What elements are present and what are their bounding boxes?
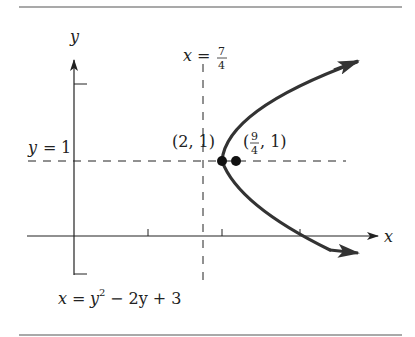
svg-text:x: x bbox=[183, 46, 192, 65]
svg-text:7: 7 bbox=[218, 45, 225, 58]
equation-label: x = y 2 − 2y + 3 bbox=[58, 287, 181, 308]
svg-text:1: 1 bbox=[61, 138, 71, 157]
label-point-9-4-1: ( 9 4 , 1) bbox=[243, 130, 287, 157]
point-vertex bbox=[217, 156, 227, 166]
y-axis-ticks bbox=[74, 84, 87, 274]
x-axis-ticks bbox=[148, 229, 300, 236]
svg-text:(: ( bbox=[243, 132, 249, 151]
svg-text:− 2y + 3: − 2y + 3 bbox=[110, 289, 181, 308]
x-axis-label: x bbox=[384, 227, 393, 246]
label-y-equals-1: y = 1 bbox=[27, 138, 71, 157]
y-axis-label: y bbox=[69, 27, 80, 46]
svg-text:y: y bbox=[27, 138, 38, 157]
svg-text:, 1): , 1) bbox=[260, 132, 287, 151]
svg-text:2: 2 bbox=[99, 287, 105, 298]
point-focus bbox=[231, 156, 241, 166]
curve-arrow-upper-icon bbox=[334, 61, 358, 70]
svg-text:9: 9 bbox=[251, 130, 258, 143]
curve-arrow-lower-icon bbox=[330, 250, 358, 253]
svg-text:4: 4 bbox=[218, 59, 225, 72]
svg-text:=: = bbox=[43, 138, 56, 157]
svg-text:=: = bbox=[197, 46, 210, 65]
svg-text:4: 4 bbox=[251, 144, 258, 157]
label-point-2-1: (2, 1) bbox=[172, 132, 215, 151]
svg-text:x: x bbox=[58, 289, 67, 308]
parabola-curve bbox=[222, 62, 357, 250]
svg-text:=: = bbox=[72, 289, 85, 308]
parabola-diagram: y x y = 1 x = 7 4 (2, 1) ( 9 4 , 1) x = … bbox=[0, 0, 415, 337]
label-x-equals-7-4: x = 7 4 bbox=[183, 45, 227, 72]
